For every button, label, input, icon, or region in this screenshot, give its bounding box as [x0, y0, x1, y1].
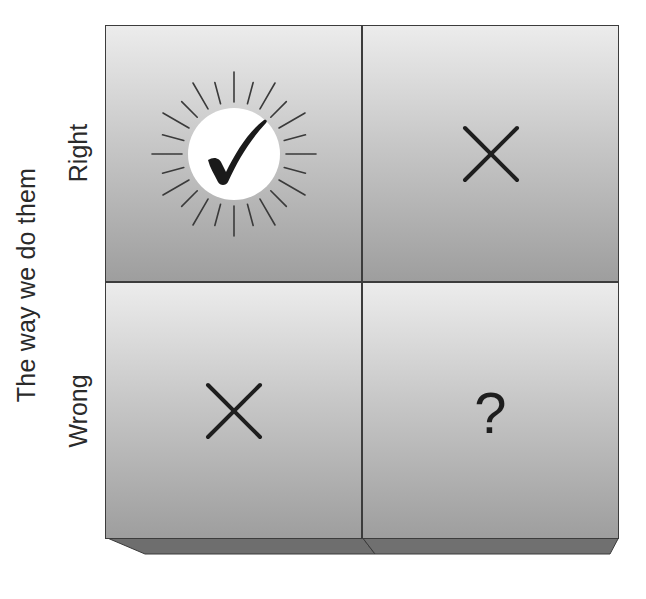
matrix-bottom-bevel: [105, 537, 619, 557]
cell-wrong-col1: [105, 282, 362, 539]
sunburst-ray: [162, 134, 183, 140]
check-sunburst-icon: [149, 69, 319, 239]
sunburst-ray: [162, 113, 188, 128]
row-label-wrong: Wrong: [64, 374, 93, 447]
bevel-left-face: [105, 537, 375, 554]
sunburst-ray: [193, 82, 208, 108]
sunburst-ray: [214, 82, 220, 103]
sunburst-ray: [260, 82, 275, 108]
sunburst-ray: [270, 101, 286, 117]
sunburst-ray: [279, 113, 305, 128]
matrix-grid: ?: [105, 25, 619, 539]
sunburst-ray: [279, 180, 305, 195]
sunburst-ray: [214, 204, 220, 225]
sunburst-ray: [193, 199, 208, 225]
bevel-right-face: [362, 537, 619, 554]
sunburst-ray: [270, 190, 286, 206]
sunburst-ray: [247, 204, 253, 225]
sunburst-ray: [162, 167, 183, 173]
sunburst-ray: [284, 134, 305, 140]
sunburst-ray: [260, 199, 275, 225]
cell-wrong-col2: ?: [362, 282, 619, 539]
row-label-right: Right: [64, 124, 93, 182]
sunburst-ray: [181, 190, 197, 206]
x-icon: [204, 381, 264, 441]
sunburst-ray: [284, 167, 305, 173]
sunburst-ray: [181, 101, 197, 117]
cell-right-col1: [105, 25, 362, 282]
cell-right-col2: [362, 25, 619, 282]
axis-title: The way we do them: [12, 168, 41, 402]
question-icon: ?: [474, 384, 506, 442]
x-icon: [461, 124, 521, 184]
sunburst-ray: [162, 180, 188, 195]
sunburst-ray: [247, 82, 253, 103]
